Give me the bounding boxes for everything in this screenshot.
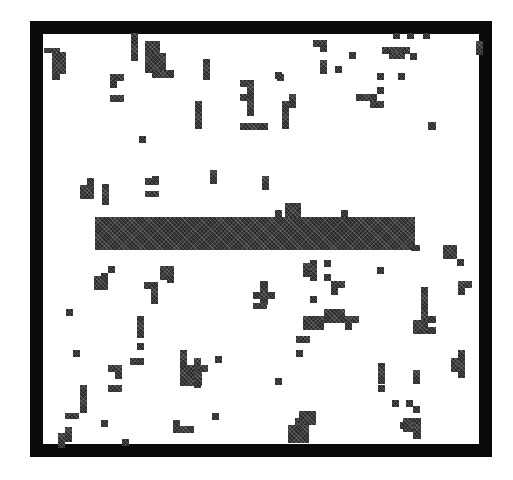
bar-bump bbox=[341, 210, 348, 218]
grid-cell bbox=[52, 52, 66, 74]
grid-cell bbox=[66, 309, 73, 316]
grid-cell bbox=[458, 281, 465, 295]
grid-cell bbox=[324, 260, 331, 267]
grid-cell bbox=[65, 427, 72, 442]
grid-cell bbox=[102, 184, 109, 205]
grid-cell bbox=[137, 343, 144, 350]
grid-cell bbox=[194, 358, 201, 388]
grid-cell bbox=[413, 418, 421, 439]
grid-cell bbox=[458, 350, 465, 378]
grid-cell bbox=[303, 316, 324, 330]
grid-cell bbox=[377, 73, 384, 80]
grid-cell bbox=[303, 263, 310, 277]
grid-cell bbox=[428, 122, 436, 130]
grid-cell bbox=[377, 267, 384, 274]
grid-cell bbox=[195, 101, 202, 129]
grid-cell bbox=[296, 350, 303, 357]
grid-cell bbox=[108, 385, 122, 392]
grid-cell bbox=[413, 320, 427, 334]
grid-cell bbox=[324, 309, 345, 323]
grid-cell bbox=[145, 191, 159, 197]
grid-cell bbox=[443, 245, 457, 259]
grid-cell bbox=[413, 370, 420, 384]
grid-cell bbox=[80, 185, 94, 199]
grid-cell bbox=[423, 33, 430, 39]
grid-cell bbox=[393, 33, 400, 39]
grid-cell bbox=[406, 400, 413, 407]
grid-cell bbox=[378, 385, 385, 392]
grid-cell bbox=[110, 95, 124, 102]
grid-cell bbox=[345, 316, 352, 330]
grid-cell bbox=[101, 273, 108, 280]
grid-cell bbox=[289, 94, 296, 108]
grid-cell bbox=[194, 365, 208, 372]
grid-cell bbox=[370, 101, 384, 108]
grid-cell bbox=[377, 87, 384, 94]
bar-bump bbox=[411, 245, 420, 251]
grid-cell bbox=[65, 413, 79, 419]
grid-cell bbox=[108, 266, 115, 273]
grid-cell bbox=[296, 336, 310, 343]
grid-cell bbox=[407, 33, 414, 39]
grid-cell bbox=[253, 303, 267, 309]
grid-cell bbox=[262, 176, 269, 190]
grid-cell bbox=[215, 356, 222, 363]
grid-cell bbox=[413, 406, 420, 413]
grid-cell bbox=[457, 259, 464, 266]
grid-cell bbox=[392, 400, 399, 407]
grid-cell bbox=[110, 80, 117, 88]
bar-bump bbox=[275, 210, 282, 218]
grid-cell bbox=[335, 66, 342, 73]
grid-cell bbox=[101, 420, 108, 427]
grid-cell bbox=[282, 101, 289, 129]
grid-cell bbox=[427, 316, 436, 323]
grid-cell bbox=[253, 292, 275, 299]
grid-cell bbox=[152, 70, 174, 78]
grid-cell bbox=[320, 44, 327, 52]
grid-cell bbox=[139, 136, 146, 143]
grid-cell bbox=[349, 52, 356, 59]
grid-cell bbox=[151, 282, 158, 304]
cellular-grid-figure bbox=[0, 0, 513, 480]
grid-cell bbox=[277, 74, 284, 81]
grid-cell bbox=[310, 296, 317, 303]
grid-cell bbox=[410, 53, 417, 60]
grid-cell bbox=[427, 327, 436, 334]
grid-cell bbox=[378, 363, 385, 384]
grid-cell bbox=[137, 358, 144, 365]
grid-cell bbox=[115, 365, 122, 379]
grid-cell bbox=[356, 94, 377, 101]
grid-cell bbox=[288, 425, 309, 443]
grid-cell bbox=[52, 72, 60, 80]
grid-cell bbox=[122, 439, 129, 446]
grid-cell bbox=[247, 80, 254, 116]
grid-cell bbox=[240, 123, 268, 130]
grid-cell bbox=[275, 378, 282, 385]
grid-cell bbox=[73, 350, 80, 357]
grid-cell bbox=[131, 33, 138, 61]
grid-cell bbox=[167, 276, 174, 283]
grid-cell bbox=[324, 274, 331, 281]
grid-cell bbox=[87, 178, 94, 186]
grid-cell bbox=[173, 426, 194, 433]
grid-cell bbox=[310, 260, 317, 281]
grid-cell bbox=[476, 41, 483, 55]
grid-cell bbox=[80, 385, 87, 413]
grid-cell bbox=[320, 60, 327, 74]
grid-cell bbox=[398, 73, 405, 80]
grid-cell bbox=[203, 59, 210, 80]
bar-bump bbox=[285, 203, 301, 218]
grid-cell bbox=[212, 413, 219, 420]
central-bar bbox=[95, 217, 415, 250]
grid-cell bbox=[331, 281, 345, 288]
grid-cell bbox=[210, 170, 217, 184]
grid-cell bbox=[152, 176, 159, 183]
grid-cell bbox=[389, 52, 405, 59]
grid-cell bbox=[299, 411, 316, 425]
grid-cell bbox=[137, 316, 144, 338]
grid-cell bbox=[58, 433, 65, 448]
